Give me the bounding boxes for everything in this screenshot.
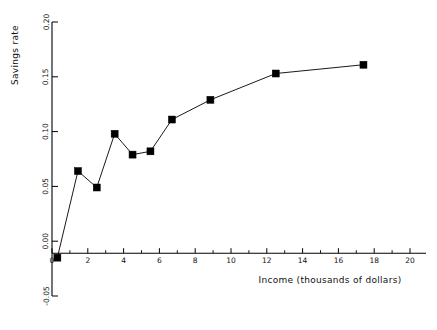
data-point-2[interactable] [93, 184, 100, 191]
data-point-9[interactable] [360, 61, 367, 68]
x-tick-label: 4 [121, 256, 126, 265]
x-tick-label: 2 [85, 256, 90, 265]
data-series [54, 61, 367, 261]
data-point-6[interactable] [168, 116, 175, 123]
x-tick-label: 8 [193, 256, 198, 265]
data-point-3[interactable] [111, 130, 118, 137]
data-point-0[interactable] [54, 254, 61, 261]
x-tick-label: 10 [226, 256, 236, 265]
data-point-7[interactable] [207, 96, 214, 103]
chart-figure: -0.050.000.050.100.150.20 02468101214161… [0, 0, 437, 330]
data-point-8[interactable] [272, 70, 279, 77]
y-axis-title: Savings rate [10, 25, 20, 85]
y-tick-label: 0.05 [42, 178, 51, 195]
y-tick-label: 0.20 [42, 13, 51, 30]
x-tick-label: 18 [369, 256, 379, 265]
x-tick-label: 16 [334, 256, 344, 265]
series-line [57, 65, 363, 258]
x-tick-label: 12 [262, 256, 272, 265]
x-tick-label: 20 [405, 256, 415, 265]
data-point-4[interactable] [129, 151, 136, 158]
x-axis: 02468101214161820 [50, 248, 426, 265]
savings-rate-line-chart: -0.050.000.050.100.150.20 02468101214161… [0, 0, 437, 330]
x-axis-title: Income (thousands of dollars) [259, 275, 402, 285]
x-tick-label: 14 [298, 256, 308, 265]
data-point-1[interactable] [74, 168, 81, 175]
series-markers [54, 61, 367, 261]
y-tick-label: 0.00 [42, 233, 51, 250]
data-point-5[interactable] [147, 148, 154, 155]
y-tick-label: 0.15 [42, 68, 51, 85]
y-tick-label: -0.05 [42, 286, 51, 306]
x-tick-label: 6 [157, 256, 162, 265]
x-axis-tick-labels: 02468101214161820 [50, 256, 415, 265]
y-tick-label: 0.10 [42, 123, 51, 140]
